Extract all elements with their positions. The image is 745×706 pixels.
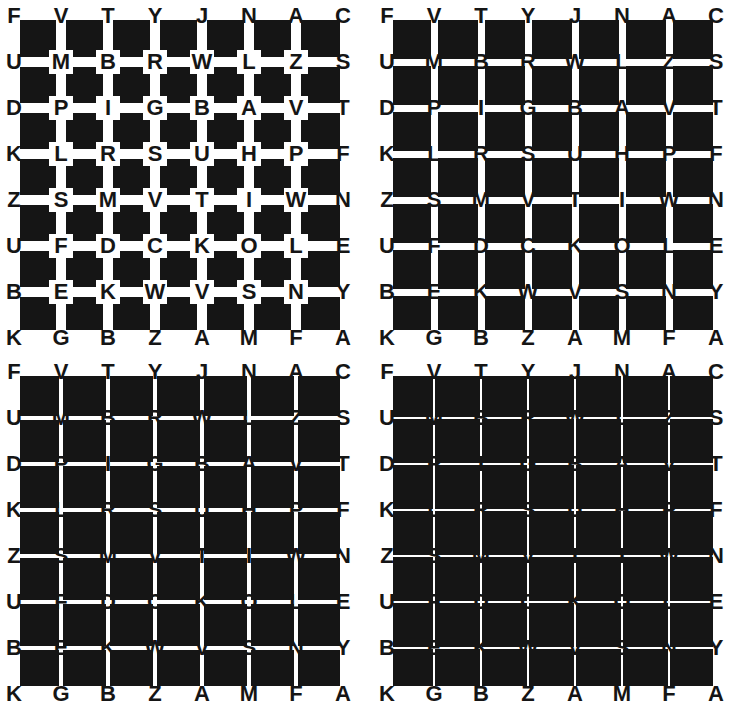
grid-letter: V <box>187 636 217 660</box>
grid-letter: S <box>140 142 170 166</box>
grid-letter: B <box>93 682 123 706</box>
grid-letter: A <box>187 326 217 350</box>
grid-letter: B <box>560 452 590 476</box>
grid-letter: U <box>0 406 29 430</box>
grid-letter: C <box>140 590 170 614</box>
grid-letter: W <box>281 544 311 568</box>
grid-letter: I <box>466 452 496 476</box>
grid-letter: Z <box>372 544 402 568</box>
grid-panel-bottom-left: FVTYJNACUMBRWLZSDPIGBAVTKLRSUHPFZSMVTIWN… <box>0 356 365 706</box>
grid-letter: P <box>46 96 76 120</box>
grid-letter: S <box>607 636 637 660</box>
grid-letter: V <box>560 280 590 304</box>
grid-letter: I <box>607 544 637 568</box>
grid-letter: Y <box>701 636 731 660</box>
grid-letter: A <box>234 96 264 120</box>
grid-letter: G <box>419 326 449 350</box>
grid-letter: I <box>93 96 123 120</box>
grid-letter: U <box>0 234 29 258</box>
grid-letter: S <box>328 406 358 430</box>
grid-letter: R <box>466 142 496 166</box>
grid-letter: C <box>328 4 358 28</box>
grid-letter: K <box>466 636 496 660</box>
grid-letter: L <box>654 590 684 614</box>
grid-letter: N <box>234 360 264 384</box>
grid-letter: D <box>93 234 123 258</box>
grid-letter: K <box>0 498 29 522</box>
grid-letter: W <box>513 636 543 660</box>
grid-letter: K <box>560 234 590 258</box>
grid-letter: R <box>466 498 496 522</box>
grid-letter: L <box>607 50 637 74</box>
grid-letter: A <box>654 4 684 28</box>
grid-letter: E <box>701 234 731 258</box>
grid-letter: R <box>140 406 170 430</box>
grid-letter: V <box>140 544 170 568</box>
grid-letter: P <box>419 96 449 120</box>
grid-letter: F <box>328 142 358 166</box>
grid-letter: G <box>513 452 543 476</box>
grid-letter: U <box>187 498 217 522</box>
grid-letter: P <box>419 452 449 476</box>
grid-letter: B <box>466 326 496 350</box>
grid-letter: T <box>93 4 123 28</box>
grid-letter: L <box>234 50 264 74</box>
grid-letter: Y <box>140 4 170 28</box>
grid-letter: N <box>701 188 731 212</box>
grid-letter: F <box>419 234 449 258</box>
grid-letter: D <box>0 452 29 476</box>
grid-letter: L <box>607 406 637 430</box>
grid-letter: S <box>140 498 170 522</box>
grid-letter: G <box>46 326 76 350</box>
grid-letter: S <box>701 50 731 74</box>
grid-letter: N <box>328 188 358 212</box>
grid-letter: S <box>234 280 264 304</box>
grid-letter: K <box>187 590 217 614</box>
grid-letter: K <box>560 590 590 614</box>
grid-letter: C <box>701 360 731 384</box>
grid-letter: M <box>93 188 123 212</box>
grid-letter: T <box>328 96 358 120</box>
grid-letter: E <box>419 636 449 660</box>
grid-letter: O <box>607 590 637 614</box>
grid-letter: J <box>560 4 590 28</box>
grid-letter: N <box>654 636 684 660</box>
grid-letter: S <box>46 544 76 568</box>
grid-letter: N <box>234 4 264 28</box>
grid-letter: H <box>234 142 264 166</box>
grid-letter: B <box>466 406 496 430</box>
grid-letter: C <box>701 4 731 28</box>
grid-letter: V <box>419 4 449 28</box>
grid-letter: M <box>607 326 637 350</box>
grid-letter: R <box>93 498 123 522</box>
grid-letter: Z <box>140 326 170 350</box>
grid-letter: A <box>560 682 590 706</box>
grid-letter: U <box>560 142 590 166</box>
grid-letter: Y <box>513 360 543 384</box>
grid-letter: G <box>46 682 76 706</box>
grid-letter: O <box>234 234 264 258</box>
grid-letter: T <box>560 544 590 568</box>
grid-letter: V <box>513 544 543 568</box>
grid-letter: B <box>93 50 123 74</box>
grid-letter: R <box>513 406 543 430</box>
grid-letter: Y <box>328 636 358 660</box>
grid-letter: N <box>328 544 358 568</box>
grid-letter: A <box>187 682 217 706</box>
grid-letter: K <box>372 682 402 706</box>
grid-letter: F <box>419 590 449 614</box>
grid-letter: S <box>513 142 543 166</box>
grid-letter: Y <box>328 280 358 304</box>
grid-letter: Z <box>372 188 402 212</box>
grid-letter: R <box>513 50 543 74</box>
grid-letter: A <box>328 682 358 706</box>
grid-letter: T <box>466 4 496 28</box>
grid-letter: K <box>0 682 29 706</box>
grid-letter: H <box>607 498 637 522</box>
grid-letter: A <box>654 360 684 384</box>
grid-letter: Z <box>654 406 684 430</box>
grid-letter: L <box>654 234 684 258</box>
grid-letter: D <box>93 590 123 614</box>
grid-letter: D <box>0 96 29 120</box>
grid-letter: M <box>46 406 76 430</box>
